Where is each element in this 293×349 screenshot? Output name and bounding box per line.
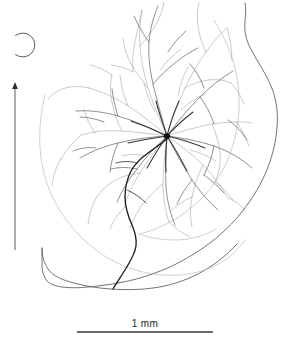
figure-root: 1 mm xyxy=(0,0,293,349)
scale-bar-label: 1 mm xyxy=(132,318,159,330)
neuron-drawing-svg xyxy=(0,0,293,349)
soma xyxy=(164,133,170,139)
scale-bar-label-row: 1 mm xyxy=(77,318,213,330)
